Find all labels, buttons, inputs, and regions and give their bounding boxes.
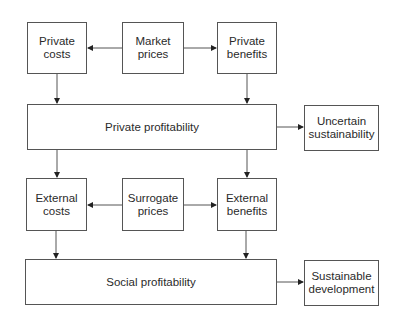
node-sustainable-development: Sustainable development xyxy=(304,260,379,306)
node-label: Private profitability xyxy=(105,121,199,134)
node-private-profitability: Private profitability xyxy=(27,104,277,150)
node-external-benefits: External benefits xyxy=(217,178,277,231)
node-label: External costs xyxy=(35,192,77,218)
node-external-costs: External costs xyxy=(26,178,87,231)
node-label: Private benefits xyxy=(227,35,267,61)
node-label: Social profitability xyxy=(106,276,195,289)
node-surrogate-prices: Surrogate prices xyxy=(122,178,184,231)
node-private-benefits: Private benefits xyxy=(217,22,277,74)
node-market-prices: Market prices xyxy=(122,22,184,74)
node-label: External benefits xyxy=(226,192,268,218)
node-label: Private costs xyxy=(39,35,75,61)
node-social-profitability: Social profitability xyxy=(25,259,277,305)
node-label: Uncertain sustainability xyxy=(309,115,375,141)
node-label: Market prices xyxy=(135,35,170,61)
node-label: Surrogate prices xyxy=(128,192,179,218)
node-uncertain-sustainability: Uncertain sustainability xyxy=(304,105,379,151)
node-label: Sustainable development xyxy=(309,270,375,296)
node-private-costs: Private costs xyxy=(27,22,87,74)
